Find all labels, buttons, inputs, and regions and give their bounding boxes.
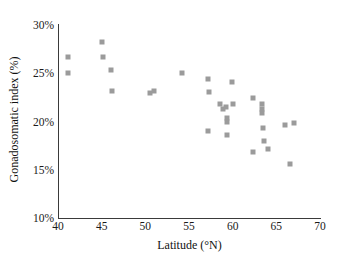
- data-point: [66, 71, 71, 76]
- data-point: [229, 79, 234, 84]
- x-tick-label: 70: [300, 221, 340, 233]
- data-point: [206, 77, 211, 82]
- plot-area: [58, 25, 320, 218]
- data-point: [250, 150, 255, 155]
- data-point: [225, 133, 230, 138]
- data-point: [110, 88, 115, 93]
- data-point: [224, 119, 229, 124]
- data-point: [66, 54, 71, 59]
- x-tick-label: 60: [213, 221, 253, 233]
- x-tick-label: 65: [256, 221, 296, 233]
- data-point: [109, 68, 114, 73]
- data-point: [230, 102, 235, 107]
- x-tick-label: 50: [125, 221, 165, 233]
- x-tick-label: 55: [169, 221, 209, 233]
- x-axis-title: Latitude (°N): [58, 238, 321, 253]
- data-point: [261, 126, 266, 131]
- data-point: [180, 71, 185, 76]
- data-point: [223, 105, 228, 110]
- data-point: [262, 138, 267, 143]
- data-point: [260, 110, 265, 115]
- x-axis-line: [58, 218, 321, 219]
- data-point: [250, 96, 255, 101]
- x-tick-label: 40: [38, 221, 78, 233]
- data-point: [283, 123, 288, 128]
- data-point: [101, 54, 106, 59]
- y-axis-title: Gonadosomatic index (%): [7, 20, 22, 220]
- scatter-chart-figure: 10%15%20%25%30% Latitude (°N) Gonadosoma…: [0, 0, 345, 265]
- data-point: [266, 147, 271, 152]
- data-point: [206, 129, 211, 134]
- data-point: [152, 88, 157, 93]
- x-tick-label: 45: [82, 221, 122, 233]
- data-point: [207, 89, 212, 94]
- data-point: [291, 121, 296, 126]
- data-point: [288, 161, 293, 166]
- data-point: [99, 40, 104, 45]
